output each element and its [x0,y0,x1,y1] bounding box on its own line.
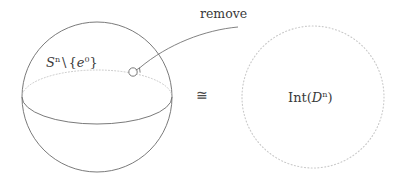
sphere-label-symbol: S [46,55,55,70]
open-disk-label-prefix: Int( [288,90,312,105]
homeomorphism-symbol: ≅ [196,88,208,102]
removed-point-marker [129,68,137,76]
sphere-equator-front-solid [22,97,172,124]
remove-annotation-label: remove [200,8,247,21]
sphere-equator-back-dotted [22,70,172,97]
open-disk-label: Int(Dn) [288,91,333,104]
sphere-outline [22,22,172,172]
remove-leader-arrow [140,27,239,68]
sphere-label-brace-open: { [68,55,76,70]
open-disk-label-symbol: D [312,90,322,105]
sphere-label-brace-close: } [90,55,98,70]
open-disk-label-suffix: ) [327,90,332,105]
figure-canvas: Sn\{e0} remove ≅ Int(Dn) [0,0,406,188]
sphere-label: Sn\{e0} [46,56,98,69]
